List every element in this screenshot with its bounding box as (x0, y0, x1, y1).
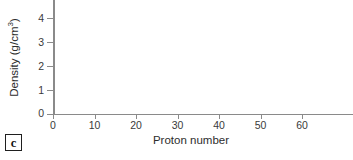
y-axis-ticklabel-2: 2 (30, 61, 44, 72)
y-axis-tick-2 (47, 66, 53, 67)
x-axis-ticklabel-30: 30 (163, 120, 193, 131)
chart-figure-panel-c: Density (g/cm3) 4 3 2 1 0 0 10 20 30 40 … (0, 0, 353, 160)
y-axis-ticklabel-1: 1 (30, 85, 44, 96)
plot-area (55, 0, 353, 114)
x-axis-ticklabel-60: 60 (287, 120, 317, 131)
y-axis-ticklabel-4: 4 (30, 13, 44, 24)
y-axis-title-exponent: 3 (6, 22, 15, 26)
y-axis-tick-4 (47, 18, 53, 19)
x-axis-ticklabel-40: 40 (204, 120, 234, 131)
y-axis-tick-3 (47, 42, 53, 43)
y-axis-title: Density (g/cm3) (4, 0, 24, 115)
x-axis-title: Proton number (53, 133, 329, 147)
x-axis-ticklabel-0: 0 (38, 120, 68, 131)
y-axis-ticklabel-0: 0 (30, 108, 44, 119)
panel-label-box: c (5, 134, 22, 151)
y-axis-title-close-paren: ) (8, 18, 20, 22)
y-axis-ticklabel-3: 3 (30, 37, 44, 48)
x-axis-ticklabel-20: 20 (121, 120, 151, 131)
y-axis-tick-1 (47, 90, 53, 91)
panel-label-text: c (11, 137, 17, 149)
x-axis-ticklabel-50: 50 (246, 120, 276, 131)
x-axis-ticklabel-10: 10 (80, 120, 110, 131)
x-axis-line (53, 114, 353, 116)
y-axis-title-text: Density (g/cm (8, 27, 20, 97)
